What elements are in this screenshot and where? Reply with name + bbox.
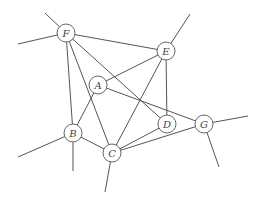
node-d: D	[158, 115, 176, 133]
node-label: D	[162, 119, 171, 130]
edge-e-c	[112, 51, 166, 153]
node-f: F	[57, 24, 75, 42]
edges-layer	[66, 33, 204, 153]
edge-e-d	[166, 51, 167, 124]
edge-a-e	[98, 51, 166, 85]
node-e: E	[157, 42, 175, 60]
edge-f-e	[66, 33, 166, 51]
stubs-layer	[18, 13, 248, 192]
node-label: A	[93, 80, 101, 91]
node-label: C	[108, 148, 116, 159]
node-label: G	[200, 119, 208, 130]
node-c: C	[103, 144, 121, 162]
node-label: F	[62, 28, 71, 39]
node-a: A	[89, 76, 107, 94]
edge-a-g	[98, 85, 204, 124]
node-g: G	[195, 115, 213, 133]
node-label: E	[161, 46, 170, 57]
node-b: B	[64, 124, 82, 142]
graph-diagram: FEABCDG	[0, 0, 264, 203]
node-label: B	[68, 128, 76, 139]
